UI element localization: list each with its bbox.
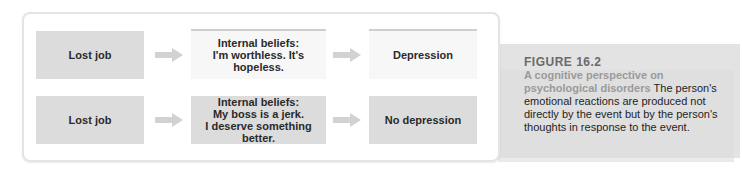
event-label: Lost job [69,49,112,61]
beliefs-text: I deserve something better. [191,120,326,144]
beliefs-text: I'm worthless. It's hopeless. [191,49,326,73]
right-arrow-icon [155,113,185,127]
beliefs-text: My boss is a jerk. [213,108,304,120]
outcome-box-row2: No depression [369,96,477,144]
right-arrow-icon [333,113,363,127]
figure-caption: FIGURE 16.2 A cognitive perspective on p… [524,55,729,134]
event-label: Lost job [69,114,112,126]
outcome-label: No depression [385,114,461,126]
event-box-row1: Lost job [36,31,144,79]
event-box-row2: Lost job [36,96,144,144]
caption-text: A cognitive perspective on psychological… [524,69,729,134]
right-arrow-icon [155,48,185,62]
beliefs-heading: Internal beliefs: [218,37,299,49]
beliefs-box-row1: Internal beliefs: I'm worthless. It's ho… [191,29,326,79]
outcome-label: Depression [393,49,453,61]
figure-title: A cognitive perspective on psychological… [524,69,664,94]
right-arrow-icon [333,48,363,62]
beliefs-heading: Internal beliefs: [218,96,299,108]
figure-number: FIGURE 16.2 [524,55,729,69]
beliefs-box-row2: Internal beliefs: My boss is a jerk. I d… [191,96,326,144]
diagram-frame: Lost job Internal beliefs: I'm worthless… [22,12,500,162]
outcome-box-row1: Depression [369,29,477,79]
